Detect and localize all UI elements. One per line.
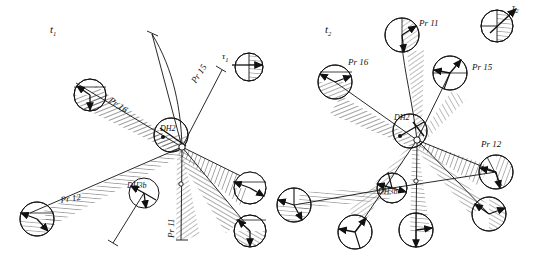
t1-legend-graphics bbox=[232, 53, 263, 81]
label-dh2-t2: DH2 bbox=[394, 114, 410, 122]
label-pr11-t1: Pr 11 bbox=[167, 218, 176, 238]
figure-canvas: t1 Pr 16 Pr 15 Pr 12 Pr 11 DH2 DH3b τ1 t… bbox=[0, 0, 533, 261]
label-dh3b-t1: DH3b bbox=[127, 182, 147, 190]
t2-legend-graphics bbox=[481, 9, 516, 42]
label-pr16-t2: Pr 16 bbox=[348, 58, 368, 67]
label-dh3b-t2: DH3b bbox=[378, 188, 398, 196]
hub-center-t1 bbox=[179, 144, 185, 150]
t1-hatch-bands bbox=[44, 86, 253, 240]
diagram-svg bbox=[0, 0, 533, 261]
label-pr15-t2: Pr 15 bbox=[472, 63, 492, 72]
hub-center-t2 bbox=[414, 137, 420, 143]
label-pr11-t2: Pr 11 bbox=[419, 19, 439, 28]
panel-label-t2: t2 bbox=[325, 24, 331, 38]
label-dh2-t1: DH2 bbox=[160, 125, 176, 133]
panel-label-t1: t1 bbox=[50, 24, 56, 38]
legend-label-tau2: τ2 bbox=[512, 3, 518, 14]
panel-t2-graphics bbox=[277, 9, 516, 249]
label-pr12-t2: Pr 12 bbox=[481, 140, 501, 149]
legend-label-tau1: τ1 bbox=[222, 52, 228, 63]
panel-t1-graphics bbox=[20, 31, 266, 247]
